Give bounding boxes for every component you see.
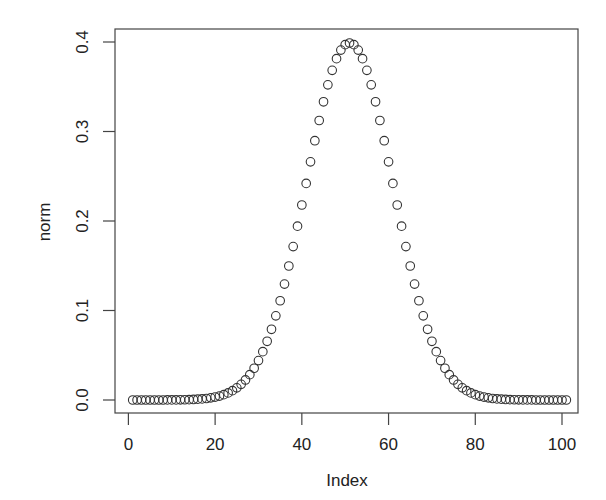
x-tick-label: 40 <box>292 435 311 454</box>
y-tick-label: 0.3 <box>73 120 92 144</box>
x-axis-label: Index <box>326 471 368 490</box>
x-tick-label: 20 <box>206 435 225 454</box>
y-tick-label: 0.1 <box>73 299 92 323</box>
y-tick-label: 0.2 <box>73 209 92 233</box>
y-tick-label: 0.0 <box>73 388 92 412</box>
x-tick-label: 0 <box>124 435 133 454</box>
x-tick-label: 100 <box>548 435 576 454</box>
plot-background <box>0 0 606 500</box>
y-tick-label: 0.4 <box>73 30 92 54</box>
x-tick-label: 60 <box>379 435 398 454</box>
y-axis-label: norm <box>35 203 54 242</box>
x-tick-label: 80 <box>466 435 485 454</box>
scatter-plot: 0.00.10.20.30.4 020406080100 Index norm <box>0 0 606 500</box>
